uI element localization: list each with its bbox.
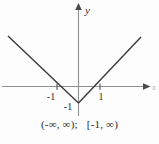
- range-interval: [-1, ∞): [87, 118, 118, 130]
- x-axis-arrow-icon: [143, 83, 151, 90]
- y-tick-label-negative-one: -1: [64, 101, 72, 112]
- x-axis-label: x: [151, 82, 156, 92]
- domain-interval: (-∞, ∞);: [41, 118, 78, 130]
- x-tick-label-positive-one: 1: [99, 91, 104, 102]
- curve-right-arm: [79, 37, 142, 103]
- interval-caption: (-∞, ∞);[-1, ∞): [0, 118, 159, 130]
- y-axis-arrow-icon: [75, 3, 82, 10]
- figure-canvas: y x -1 1 -1 (-∞, ∞);[-1, ∞): [0, 0, 159, 144]
- y-axis-label: y: [84, 4, 90, 16]
- curve-left-arm: [8, 36, 79, 103]
- x-tick-label-negative-one: -1: [47, 91, 55, 102]
